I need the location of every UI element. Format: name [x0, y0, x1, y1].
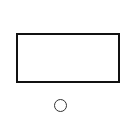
- circle-shape: [54, 99, 67, 112]
- rectangle-shape: [16, 33, 120, 83]
